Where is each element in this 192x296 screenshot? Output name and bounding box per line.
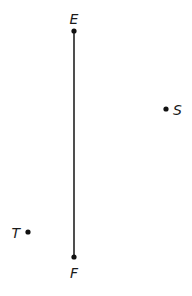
- point-s-label: S: [173, 102, 182, 118]
- point-e-label: E: [70, 11, 79, 27]
- point-f-dot: [71, 254, 76, 259]
- point-e-dot: [71, 28, 76, 33]
- point-t-label: T: [11, 225, 21, 241]
- point-f-label: F: [70, 265, 79, 281]
- point-t-dot: [25, 229, 30, 234]
- point-s-dot: [163, 106, 168, 111]
- geometry-diagram: EFST: [0, 0, 192, 296]
